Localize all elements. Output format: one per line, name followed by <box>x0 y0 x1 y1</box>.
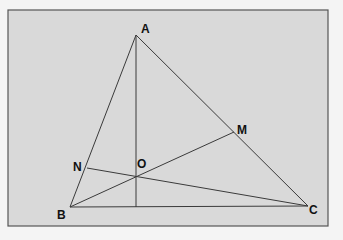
label-B: B <box>57 208 66 222</box>
label-O: O <box>137 157 146 171</box>
label-A: A <box>141 22 150 36</box>
diagram-frame <box>8 10 328 226</box>
geometry-diagram: A B C M N O <box>0 0 343 240</box>
label-M: M <box>237 123 247 137</box>
label-N: N <box>73 160 82 174</box>
label-C: C <box>309 203 318 217</box>
